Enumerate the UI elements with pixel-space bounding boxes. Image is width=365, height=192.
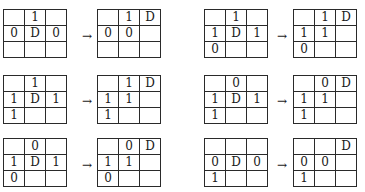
grid-cell: 1 [119, 155, 140, 171]
grid-before-3: 11D11 [3, 75, 67, 124]
grid-cell [205, 76, 226, 92]
grid-row [4, 42, 67, 58]
grid-cell [294, 139, 315, 155]
grid-after-6: D001 [293, 138, 357, 187]
grid-cell [140, 155, 161, 171]
grid-cell: 1 [46, 92, 67, 108]
grid-cell: 1 [315, 92, 336, 108]
grid-row: 0D0 [4, 26, 67, 42]
grid-cell: 0 [205, 42, 226, 58]
grid-row: 1 [205, 10, 268, 26]
grid-row: 11 [294, 92, 357, 108]
grid-cell [226, 42, 247, 58]
grid-cell: 0 [4, 171, 25, 187]
grid-after-1: 1D00 [97, 9, 161, 58]
grid-before-4: 01D11 [204, 75, 268, 124]
grid-cell [4, 42, 25, 58]
grid-cell: 1 [294, 26, 315, 42]
grid-before-2: 11D10 [204, 9, 268, 58]
grid-row: 0 [98, 171, 161, 187]
grid-cell: 1 [247, 92, 268, 108]
grid-cell [315, 139, 336, 155]
grid-row: 1D1 [205, 26, 268, 42]
grid-cell [98, 42, 119, 58]
grid-before-5: 01D10 [3, 138, 67, 187]
grid-cell: 1 [294, 92, 315, 108]
grid-cell [140, 42, 161, 58]
grid-cell [205, 10, 226, 26]
grid-after-3: 1D111 [97, 75, 161, 124]
grid-cell: 1 [119, 76, 140, 92]
grid-cell: 0 [205, 155, 226, 171]
grid-cell [336, 155, 357, 171]
grid-row: 1D [294, 10, 357, 26]
grid-cell: 1 [98, 108, 119, 124]
grid-cell [205, 139, 226, 155]
grid-cell [247, 139, 268, 155]
grid-cell: 1 [98, 92, 119, 108]
grid-cell: 0 [315, 76, 336, 92]
grid-before-1: 10D0 [3, 9, 67, 58]
grid-row: 1 [205, 171, 268, 187]
grid-cell: 0 [315, 155, 336, 171]
grid-row [205, 139, 268, 155]
grid-row: 11 [294, 26, 357, 42]
grid-cell: 1 [205, 108, 226, 124]
grid-cell [4, 139, 25, 155]
grid-cell: 1 [4, 92, 25, 108]
grid-after-4: 0D111 [293, 75, 357, 124]
grid-cell [119, 171, 140, 187]
grid-cell: D [336, 76, 357, 92]
grid-cell: D [336, 10, 357, 26]
grid-cell [4, 10, 25, 26]
grid-cell [315, 108, 336, 124]
grid-cell: 0 [294, 42, 315, 58]
grid-cell [46, 10, 67, 26]
grid-cell [119, 108, 140, 124]
grid-row: 00 [98, 26, 161, 42]
grid-cell [315, 171, 336, 187]
grid-cell: 0 [119, 139, 140, 155]
grid-cell: 1 [46, 155, 67, 171]
grid-row: 1 [98, 108, 161, 124]
grid-cell [25, 171, 46, 187]
grid-row: 1D [98, 76, 161, 92]
arrow-icon: → [277, 159, 287, 171]
grid-row: 11 [98, 92, 161, 108]
grid-cell [46, 139, 67, 155]
grid-row: 1 [205, 108, 268, 124]
grid-cell [336, 42, 357, 58]
grid-cell: 1 [25, 10, 46, 26]
grid-cell [46, 76, 67, 92]
grid-cell: D [25, 92, 46, 108]
grid-cell: D [226, 155, 247, 171]
arrow-icon: → [277, 30, 287, 42]
grid-cell [226, 139, 247, 155]
grid-row: 0 [4, 139, 67, 155]
grid-cell: 0 [25, 139, 46, 155]
grid-cell [336, 108, 357, 124]
grid-cell [294, 10, 315, 26]
grid-row: 0 [205, 42, 268, 58]
grid-cell [336, 92, 357, 108]
grid-row: 1 [294, 171, 357, 187]
grid-cell: 1 [4, 108, 25, 124]
grid-cell [98, 10, 119, 26]
grid-cell [98, 139, 119, 155]
grid-row: 1D1 [4, 92, 67, 108]
grid-row: 1D [98, 10, 161, 26]
grid-cell: 1 [98, 155, 119, 171]
grid-cell: 1 [119, 10, 140, 26]
grid-cell: D [226, 26, 247, 42]
grid-cell: D [140, 76, 161, 92]
grid-cell [140, 92, 161, 108]
grid-cell [336, 26, 357, 42]
arrow-icon: → [277, 95, 287, 107]
grid-cell [226, 108, 247, 124]
grid-cell: 0 [98, 171, 119, 187]
grid-after-5: 0D110 [97, 138, 161, 187]
grid-row: 00 [294, 155, 357, 171]
grid-row: 0 [294, 42, 357, 58]
grid-cell [46, 42, 67, 58]
grid-cell [25, 42, 46, 58]
